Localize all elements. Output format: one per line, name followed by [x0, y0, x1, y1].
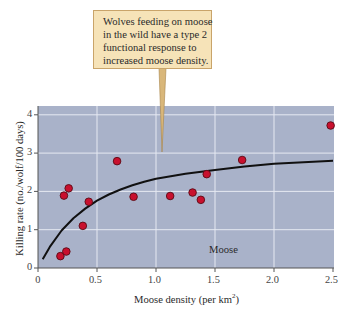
series-label: Moose [209, 244, 238, 255]
data-point [203, 170, 211, 178]
x-tick-label: 0.5 [89, 274, 102, 285]
x-tick-label: 2.0 [266, 274, 279, 285]
x-tick-label: 1.0 [148, 274, 161, 285]
x-tick-label: 2.5 [325, 274, 338, 285]
callout-line: Wolves feeding on moose [103, 15, 206, 28]
x-tick-label: 0 [35, 274, 40, 285]
data-point [327, 122, 335, 130]
x-tick-label: 1.5 [207, 274, 220, 285]
data-point [197, 196, 205, 204]
callout-line: increased moose density. [103, 54, 206, 67]
y-tick-label: 2 [27, 184, 32, 195]
y-tick-label: 3 [27, 146, 32, 157]
data-point [79, 222, 87, 230]
data-point [166, 192, 174, 200]
data-point [238, 156, 246, 164]
x-axis-label-text: Moose density (per km [134, 294, 232, 305]
callout-line: in the wild have a type 2 [103, 28, 206, 41]
data-point [65, 185, 73, 193]
plot-area [38, 106, 334, 268]
callout-line: functional response to [103, 41, 206, 54]
data-point [60, 192, 68, 200]
data-point [85, 198, 93, 206]
data-point [130, 193, 138, 201]
x-axis-label-end: ) [235, 294, 239, 305]
callout-box: Wolves feeding on moose in the wild have… [93, 10, 212, 69]
y-axis-label: Killing rate (no./wolf/100 days) [14, 104, 25, 274]
x-axis-label: Moose density (per km2) [134, 292, 239, 305]
y-tick-label: 0 [27, 261, 32, 272]
data-point [113, 157, 121, 165]
y-tick-label: 4 [27, 108, 32, 119]
y-tick-label: 1 [27, 223, 32, 234]
data-point [189, 189, 197, 197]
data-point [63, 248, 71, 256]
